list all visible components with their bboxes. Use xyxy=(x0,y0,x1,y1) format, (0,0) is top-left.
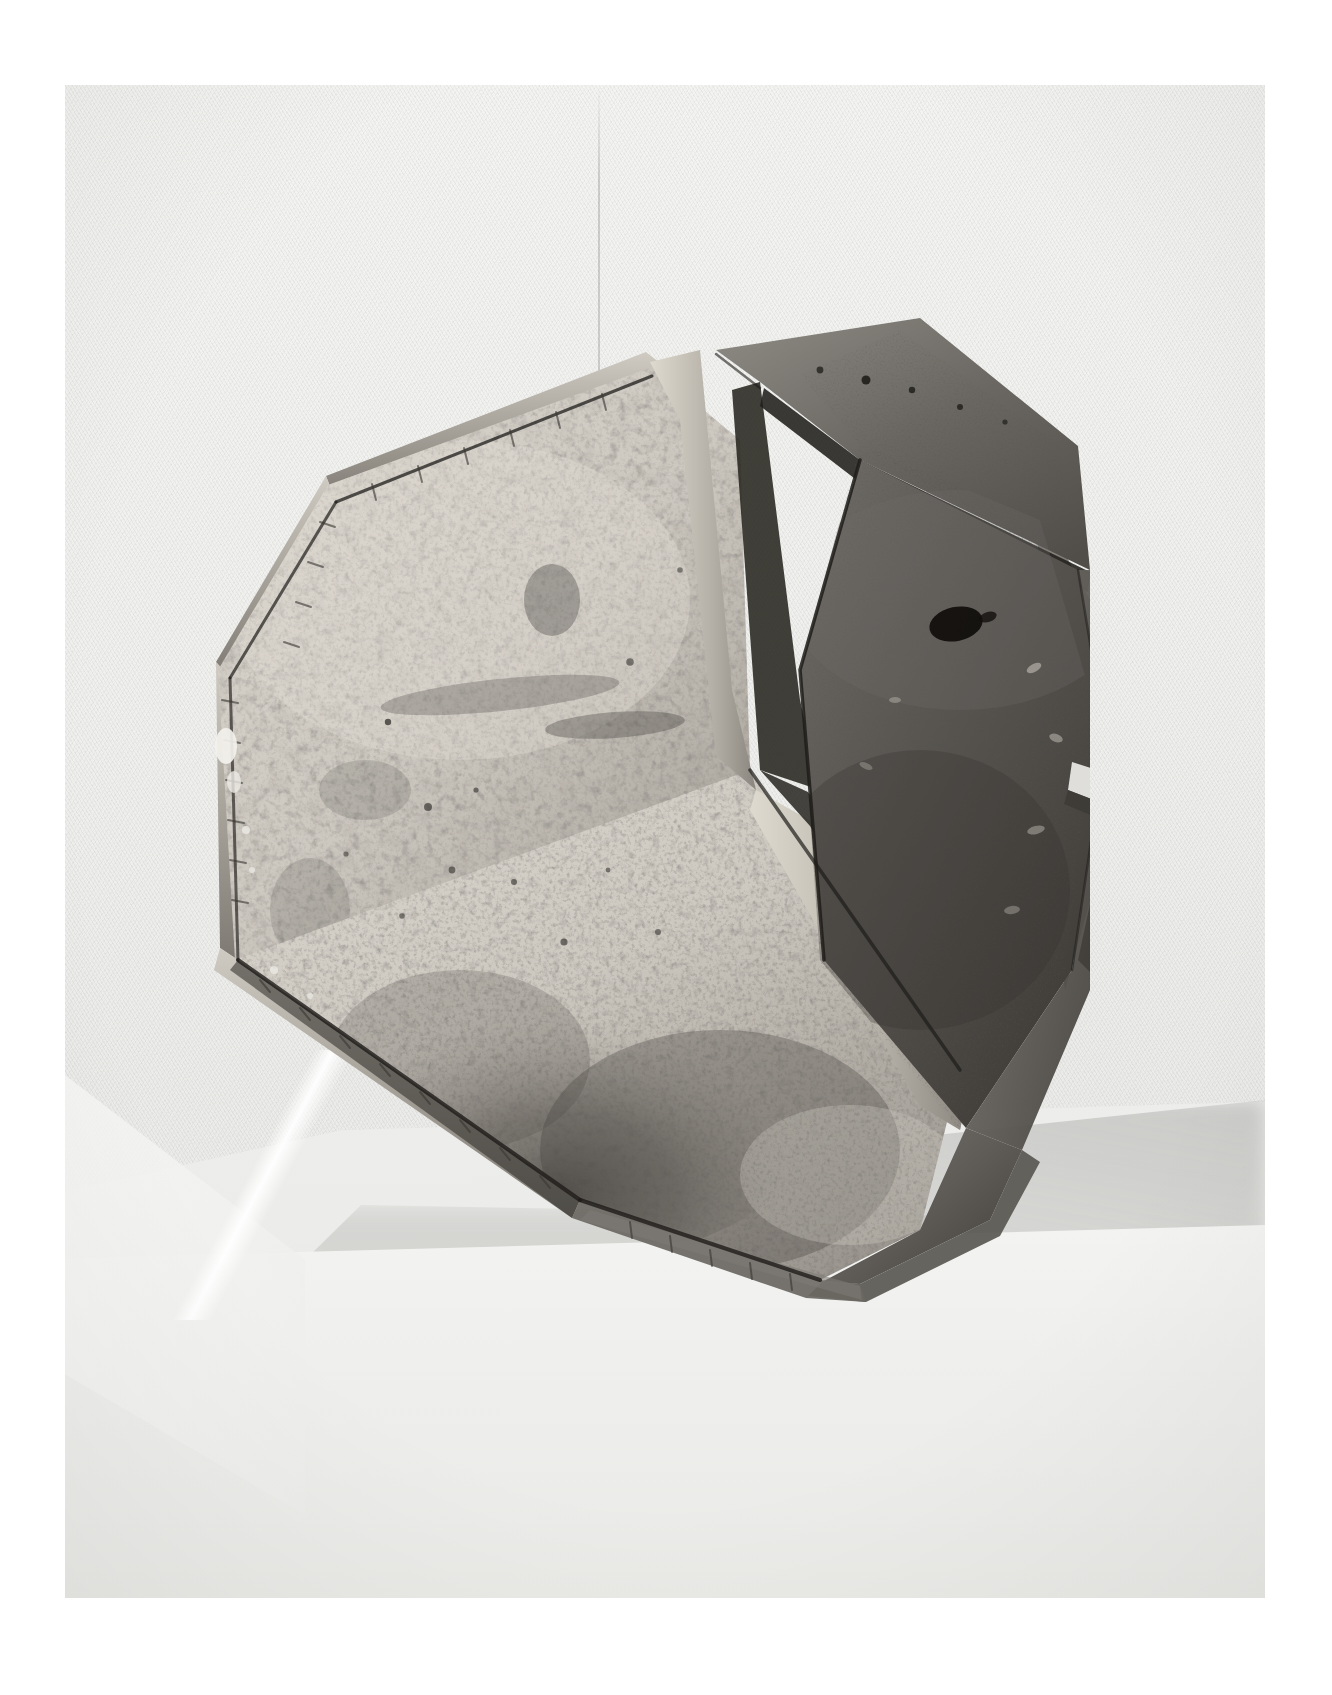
sculpture-svg xyxy=(160,270,1090,1310)
photograph xyxy=(65,85,1265,1598)
ceramic-polyhedron-sculpture xyxy=(160,270,1090,1310)
photographic-plate-page xyxy=(0,0,1332,1695)
